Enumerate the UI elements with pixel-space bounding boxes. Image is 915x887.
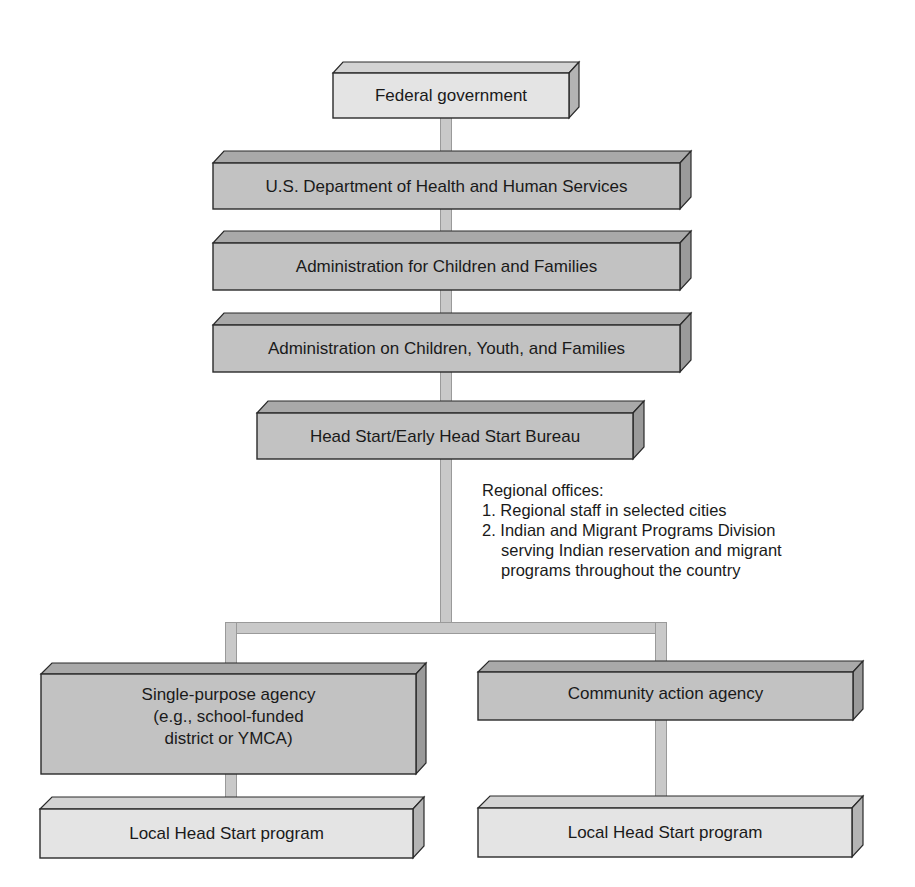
node-label: Community action agency xyxy=(478,672,853,714)
node-acf: Administration for Children and Families xyxy=(213,231,691,291)
node-local-head-start-left: Local Head Start program xyxy=(40,797,424,859)
connector-community-local xyxy=(655,719,667,803)
node-federal-government: Federal government xyxy=(333,62,579,120)
connector-branch-left xyxy=(225,622,237,667)
org-chart: Federal government U.S. Department of He… xyxy=(0,0,915,887)
node-label: Administration for Children and Families xyxy=(213,243,680,290)
node-hhs: U.S. Department of Health and Human Serv… xyxy=(213,151,691,210)
connector-branch-horizontal xyxy=(225,622,667,634)
node-label: Local Head Start program xyxy=(478,808,852,857)
note-item-2-cont: serving Indian reservation and migrant xyxy=(482,540,782,560)
node-acyf: Administration on Children, Youth, and F… xyxy=(213,313,691,373)
node-community-action-agency: Community action agency xyxy=(478,661,863,721)
node-label: Local Head Start program xyxy=(40,809,413,858)
node-label: Federal government xyxy=(333,73,569,118)
note-item-2-cont: programs throughout the country xyxy=(482,560,782,580)
regional-offices-note: Regional offices: 1. Regional staff in s… xyxy=(482,480,782,580)
note-item-1: 1. Regional staff in selected cities xyxy=(482,500,782,520)
note-title: Regional offices: xyxy=(482,480,782,500)
connector-acf-acyf xyxy=(440,289,452,316)
node-single-purpose-agency: Single-purpose agency (e.g., school-fund… xyxy=(41,663,426,775)
connector-federal-hhs xyxy=(440,117,452,153)
node-head-start-bureau: Head Start/Early Head Start Bureau xyxy=(257,401,644,460)
connector-branch-right xyxy=(655,622,667,665)
node-label: Head Start/Early Head Start Bureau xyxy=(257,413,633,459)
connector-acyf-bureau xyxy=(440,371,452,403)
node-label: Administration on Children, Youth, and F… xyxy=(213,325,680,372)
node-local-head-start-right: Local Head Start program xyxy=(478,796,863,858)
node-label: Single-purpose agency (e.g., school-fund… xyxy=(41,674,416,760)
note-item-2: 2. Indian and Migrant Programs Division xyxy=(482,520,782,540)
node-label: U.S. Department of Health and Human Serv… xyxy=(213,163,680,209)
connector-bureau-branch xyxy=(440,458,452,634)
